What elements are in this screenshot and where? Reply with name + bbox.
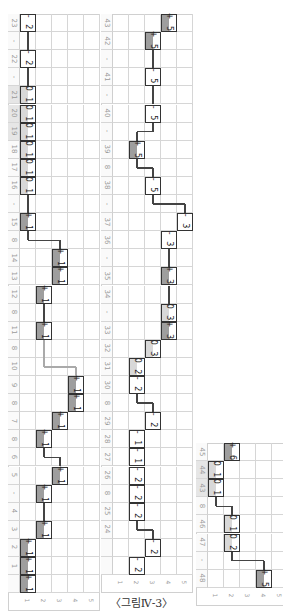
grid-cell (272, 497, 283, 515)
grid-cell (208, 515, 224, 533)
grid-cell (52, 575, 68, 593)
grid-cell (68, 213, 84, 231)
row-label: 8 (101, 394, 113, 412)
note-value: 0 2 (228, 533, 237, 552)
grid-cell (68, 557, 84, 575)
note-box: 0 1 (208, 461, 224, 479)
note-box: 0 1 (20, 86, 36, 104)
grid-cell (52, 68, 68, 86)
column-label: 4 (165, 581, 172, 585)
row-label-text: - (103, 311, 111, 314)
note-value: + 6 (228, 442, 237, 462)
grid-cell (177, 50, 193, 68)
grid-cell (272, 515, 283, 533)
note-box: - 2 (129, 467, 145, 485)
row-label: 4 (8, 503, 20, 521)
grid-cell (113, 68, 129, 86)
row-label: - (101, 50, 113, 68)
note-value: + 3 (165, 266, 174, 286)
note-box: - 2 (145, 412, 161, 430)
connector-line (216, 506, 232, 508)
grid-cell (20, 286, 36, 304)
grid-cell (161, 68, 177, 86)
note-box: - 3 (177, 213, 193, 231)
grid-cell (84, 231, 100, 249)
note-box: + 1 (36, 322, 52, 340)
row-label-text: 37 (103, 217, 111, 226)
grid-cell (84, 485, 100, 503)
note-box: 0 3 (145, 340, 161, 358)
grid-cell (84, 575, 100, 593)
grid-cell (240, 479, 256, 497)
row-label: 17 (8, 159, 20, 177)
note-box: + 1 (20, 575, 36, 593)
grid-cell (177, 286, 193, 304)
note-value: + 5 (165, 13, 174, 33)
note-box: + 1 (36, 485, 52, 503)
note-value: + 1 (40, 321, 49, 341)
grid-cell (113, 304, 129, 322)
grid-cell (113, 249, 129, 267)
row-label: 23 (8, 14, 20, 32)
column-label: 2 (133, 581, 140, 585)
grid-cell (36, 195, 52, 213)
connector-line (152, 403, 154, 412)
grid-cell (113, 467, 129, 485)
figure-caption: 〈그림Ⅳ-3〉 (0, 594, 283, 610)
note-value: 0 1 (24, 122, 33, 141)
row-label: 42 (101, 32, 113, 50)
row-label-text: - (103, 94, 111, 97)
row-label-text: 17 (10, 163, 18, 172)
row-label: 29 (101, 412, 113, 430)
note-value: - 1 (133, 449, 142, 466)
grid-cell (129, 286, 145, 304)
note-box: + 1 (36, 286, 52, 304)
note-box: - 2 (20, 50, 36, 68)
note-value: - 2 (133, 377, 142, 394)
note-value: + 3 (165, 321, 174, 341)
grid-cell (84, 430, 100, 448)
grid-cell (113, 159, 129, 177)
grid-cell (68, 68, 84, 86)
grid-cell (177, 539, 193, 557)
row-label: 45 (196, 443, 208, 461)
row-label-text: 3 (10, 527, 18, 531)
grid-cell (52, 376, 68, 394)
row-label: 28 (101, 430, 113, 448)
connector-line (232, 560, 264, 562)
row-label-text: 6 (10, 455, 18, 459)
row-label-text: 48 (198, 574, 206, 583)
connector-line (27, 32, 29, 50)
note-box: - 5 (145, 68, 161, 86)
note-box: + 1 (52, 467, 68, 485)
grid-cell (52, 304, 68, 322)
grid-cell (256, 515, 272, 533)
grid-cell (177, 358, 193, 376)
grid-cell (113, 231, 129, 249)
row-label: - (8, 32, 20, 50)
grid-cell (129, 86, 145, 104)
connector-line (137, 529, 153, 531)
row-label: 38 (101, 177, 113, 195)
row-label: 41 (101, 68, 113, 86)
row-label-text: 42 (103, 36, 111, 45)
grid-cell (68, 322, 84, 340)
row-label: 8 (8, 394, 20, 412)
grid-cell (68, 249, 84, 267)
row-label: 8 (101, 159, 113, 177)
connector-line (153, 203, 185, 205)
row-label-text: - (103, 130, 111, 133)
grid-cell (177, 394, 193, 412)
row-label: 47 (196, 534, 208, 552)
grid-cell (113, 376, 129, 394)
grid-cell (36, 123, 52, 141)
grid-cell (84, 448, 100, 466)
note-value: 0 2 (133, 358, 142, 377)
grid-cell (129, 304, 145, 322)
grid-cell (84, 286, 100, 304)
note-box: - 1 (129, 448, 145, 466)
grid-cell (84, 195, 100, 213)
grid-cell (145, 213, 161, 231)
row-label: 24 (101, 521, 113, 539)
grid-cell (20, 521, 36, 539)
